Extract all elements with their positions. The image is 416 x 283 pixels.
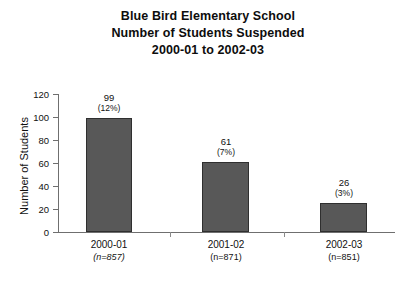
x-axis-label-year-2002-03: 2002-03	[304, 239, 384, 251]
bar-value-2000-01: 99 (12%)	[79, 92, 139, 114]
x-tick-separator-2	[284, 232, 285, 237]
x-axis-label-year-2000-01: 2000-01	[69, 239, 149, 251]
bar-value-number-2001-02: 61	[196, 136, 256, 147]
x-tick-separator-1	[170, 232, 171, 237]
y-tick-60	[53, 163, 58, 164]
bar-2001-02[interactable]	[202, 162, 249, 232]
bar-value-number-2000-01: 99	[79, 92, 139, 103]
y-tick-label-100: 100	[0, 112, 49, 123]
x-axis-label-2000-01: 2000-01 (n=857)	[69, 239, 149, 263]
y-tick-label-60: 60	[0, 158, 49, 169]
y-tick-label-80: 80	[0, 135, 49, 146]
y-tick-0	[53, 232, 58, 233]
x-axis-line	[58, 232, 395, 233]
bar-value-number-2002-03: 26	[314, 177, 374, 188]
y-tick-40	[53, 186, 58, 187]
bar-value-2002-03: 26 (3%)	[314, 177, 374, 199]
x-axis-label-2001-02: 2001-02 (n=871)	[186, 239, 266, 263]
y-tick-label-0: 0	[0, 227, 49, 238]
bar-value-2001-02: 61 (7%)	[196, 136, 256, 158]
bar-value-percent-2002-03: (3%)	[314, 188, 374, 199]
y-tick-120	[53, 94, 58, 95]
y-axis-line	[58, 94, 59, 233]
x-axis-label-n-2000-01: (n=857)	[69, 251, 149, 263]
plot-area: Number of Students 0 20 40 60 80 100 120…	[0, 0, 416, 283]
x-axis-label-n-2001-02: (n=871)	[186, 251, 266, 263]
x-axis-label-n-2002-03: (n=851)	[304, 251, 384, 263]
bar-value-percent-2001-02: (7%)	[196, 147, 256, 158]
y-tick-label-20: 20	[0, 204, 49, 215]
y-tick-label-120: 120	[0, 89, 49, 100]
x-axis-label-year-2001-02: 2001-02	[186, 239, 266, 251]
bar-2002-03[interactable]	[320, 203, 367, 232]
bar-2000-01[interactable]	[86, 118, 132, 232]
y-tick-100	[53, 117, 58, 118]
x-axis-label-2002-03: 2002-03 (n=851)	[304, 239, 384, 263]
bar-value-percent-2000-01: (12%)	[79, 103, 139, 114]
y-tick-label-40: 40	[0, 181, 49, 192]
y-tick-20	[53, 209, 58, 210]
y-tick-80	[53, 140, 58, 141]
